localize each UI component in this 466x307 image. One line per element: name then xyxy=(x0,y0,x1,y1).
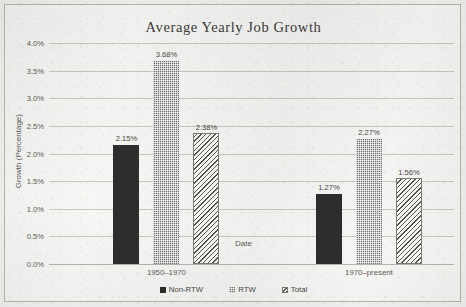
gridline xyxy=(49,264,454,265)
chart-frame: Average Yearly Job Growth Growth (Percen… xyxy=(4,4,461,302)
legend-swatch-icon xyxy=(229,287,235,293)
x-axis-category-label: 1950–1970 xyxy=(147,268,186,277)
bar-value-label: 2.15% xyxy=(116,134,138,143)
gridline xyxy=(49,236,454,237)
gridline xyxy=(49,181,454,182)
plot-area: 0.0%0.5%1.0%1.5%2.0%2.5%3.0%3.5%4.0%2.15… xyxy=(49,43,454,264)
bar[interactable]: 1.27% xyxy=(316,194,342,264)
legend-item[interactable]: Total xyxy=(282,285,307,294)
bar-value-label: 2.27% xyxy=(358,128,380,137)
bar-value-label: 1.56% xyxy=(398,168,420,177)
bar-value-label: 3.68% xyxy=(156,50,178,59)
y-axis-tick-label: 3.0% xyxy=(27,94,44,103)
legend-swatch-icon xyxy=(282,287,288,293)
bar[interactable]: 2.15% xyxy=(113,145,139,264)
legend-item[interactable]: RTW xyxy=(229,285,256,294)
y-axis-tick-label: 0.0% xyxy=(27,260,44,269)
y-axis-tick-label: 2.5% xyxy=(27,121,44,130)
y-axis-tick-label: 4.0% xyxy=(27,39,44,48)
legend-item-label: Total xyxy=(291,285,307,294)
bar[interactable]: 2.38% xyxy=(193,133,219,264)
bar-value-label: 1.27% xyxy=(318,183,340,192)
gridline xyxy=(49,154,454,155)
chart-title: Average Yearly Job Growth xyxy=(5,19,462,36)
chart-legend: Non-RTWRTWTotal xyxy=(5,285,462,294)
legend-item-label: Non-RTW xyxy=(169,285,204,294)
gridline xyxy=(49,98,454,99)
y-axis-tick-label: 3.5% xyxy=(27,66,44,75)
x-axis-category-label: 1970–present xyxy=(345,268,393,277)
bar[interactable]: 3.68% xyxy=(153,61,179,264)
bar[interactable]: 2.27% xyxy=(356,139,382,264)
gridline xyxy=(49,209,454,210)
bar[interactable]: 1.56% xyxy=(396,178,422,264)
y-axis-tick-label: 1.5% xyxy=(27,177,44,186)
gridline xyxy=(49,71,454,72)
legend-item-label: RTW xyxy=(238,285,256,294)
legend-item[interactable]: Non-RTW xyxy=(160,285,204,294)
y-axis-tick-label: 0.5% xyxy=(27,232,44,241)
y-axis-title: Growth (Percentage) xyxy=(14,114,26,188)
gridline xyxy=(49,126,454,127)
bar-value-label: 2.38% xyxy=(196,123,218,132)
legend-swatch-icon xyxy=(160,287,166,293)
y-axis-tick-label: 1.0% xyxy=(27,204,44,213)
y-axis-tick-label: 2.0% xyxy=(27,149,44,158)
x-axis-title: Date xyxy=(235,239,252,248)
gridline xyxy=(49,43,454,44)
